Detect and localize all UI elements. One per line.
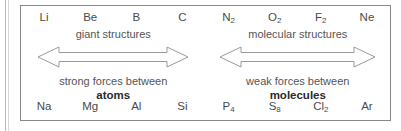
element-symbol: B bbox=[132, 11, 140, 23]
element-cell-ar: Ar bbox=[344, 99, 390, 117]
element-symbol: Si bbox=[177, 100, 187, 112]
element-cell-s8: S8 bbox=[252, 99, 298, 117]
weak-forces-label: weak forces between bbox=[246, 75, 349, 87]
range-arrow-row bbox=[21, 44, 390, 70]
element-cell-b: B bbox=[113, 10, 159, 28]
strong-forces-label: strong forces between bbox=[59, 75, 167, 87]
element-cell-na: Na bbox=[21, 99, 67, 117]
element-symbol: Mg bbox=[82, 100, 98, 112]
element-cell-n2: N2 bbox=[206, 10, 252, 28]
element-cell-c: C bbox=[159, 10, 205, 28]
double-headed-arrow-icon bbox=[37, 45, 189, 69]
element-symbol: C bbox=[178, 11, 186, 23]
element-cell-si: Si bbox=[159, 99, 205, 117]
element-subscript: 2 bbox=[324, 105, 328, 114]
element-symbol: O bbox=[268, 11, 277, 23]
element-symbol: Li bbox=[40, 11, 49, 23]
page-margin-rule-secondary bbox=[8, 0, 9, 131]
element-subscript: 2 bbox=[230, 16, 234, 25]
bonding-structure-diagram: Li Be B C N2 O2 F2 Ne giant structures m… bbox=[20, 5, 391, 121]
element-cell-al: Al bbox=[113, 99, 159, 117]
element-cell-mg: Mg bbox=[67, 99, 113, 117]
element-symbol: Be bbox=[83, 11, 97, 23]
element-cell-be: Be bbox=[67, 10, 113, 28]
element-symbol: Ne bbox=[360, 11, 375, 23]
giant-structures-label: giant structures bbox=[21, 27, 206, 41]
element-cell-p4: P4 bbox=[206, 99, 252, 117]
element-cell-li: Li bbox=[21, 10, 67, 28]
element-symbol: Na bbox=[37, 100, 52, 112]
giant-structures-arrow-container bbox=[21, 44, 206, 70]
element-subscript: 2 bbox=[322, 16, 326, 25]
period-2-element-row: Li Be B C N2 O2 F2 Ne bbox=[21, 10, 390, 28]
element-symbol: Cl bbox=[313, 100, 324, 112]
element-cell-f2: F2 bbox=[298, 10, 344, 28]
element-symbol: Al bbox=[131, 100, 141, 112]
element-symbol: Ar bbox=[361, 100, 373, 112]
element-subscript: 2 bbox=[277, 16, 281, 25]
element-subscript: 8 bbox=[276, 105, 280, 114]
element-cell-o2: O2 bbox=[252, 10, 298, 28]
double-headed-arrow-icon bbox=[219, 45, 376, 69]
structure-type-caption-row: giant structures molecular structures bbox=[21, 27, 390, 41]
period-3-element-row: Na Mg Al Si P4 S8 Cl2 Ar bbox=[21, 99, 390, 117]
molecular-structures-arrow-container bbox=[206, 44, 391, 70]
page-margin-rule bbox=[5, 0, 6, 131]
element-cell-cl2: Cl2 bbox=[298, 99, 344, 117]
element-subscript: 4 bbox=[230, 105, 234, 114]
element-cell-ne: Ne bbox=[344, 10, 390, 28]
molecular-structures-label: molecular structures bbox=[206, 27, 391, 41]
